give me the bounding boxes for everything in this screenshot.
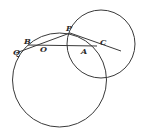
- label-C: C: [100, 37, 107, 47]
- label-Q: Q: [13, 47, 20, 57]
- label-A: A: [80, 46, 87, 56]
- large-circle: [13, 33, 107, 127]
- label-O: O: [40, 44, 47, 54]
- label-B: B: [23, 36, 31, 46]
- line-PC: [70, 33, 121, 51]
- label-P: P: [65, 23, 73, 33]
- geometry-diagram: P B Q O A C: [0, 0, 146, 133]
